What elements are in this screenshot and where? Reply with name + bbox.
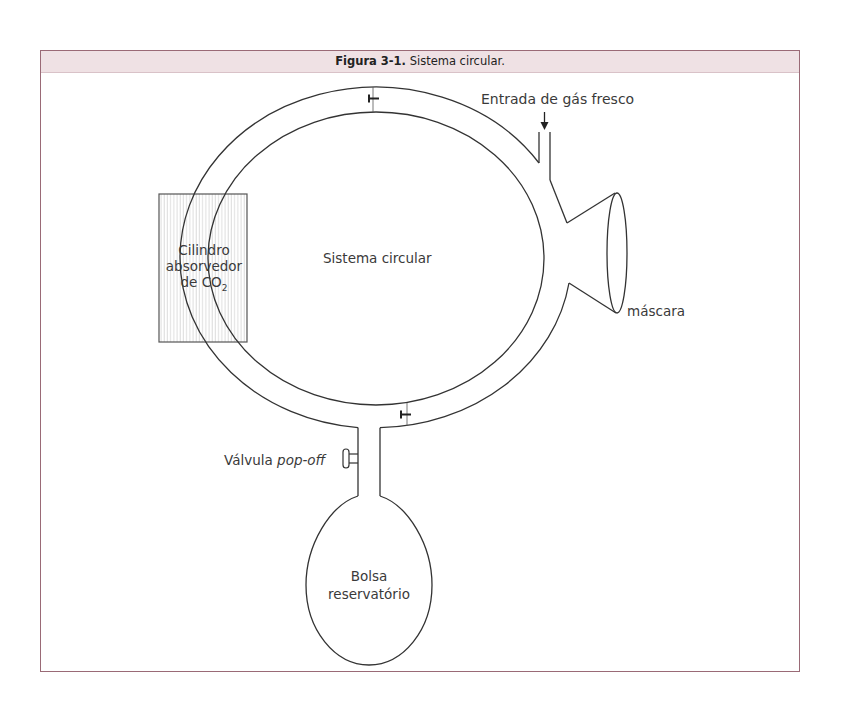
co2-absorber-label: Cilindro absorvedor de CO2 bbox=[156, 242, 252, 296]
circuit-outer-wall-lower-right bbox=[380, 283, 569, 428]
absorber-label-line3: de CO2 bbox=[156, 274, 252, 296]
bag-label-line2: reservatório bbox=[319, 585, 419, 603]
expiratory-valve-icon bbox=[401, 403, 411, 426]
popoff-valve-label: Válvula pop-off bbox=[224, 452, 325, 468]
circuit-outer-wall-upper-right bbox=[550, 180, 567, 223]
circle-system-diagram bbox=[0, 0, 845, 709]
reservoir-bag-label: Bolsa reservatório bbox=[319, 567, 419, 603]
arrow-down-icon bbox=[541, 112, 549, 130]
inspiratory-valve-icon bbox=[369, 87, 379, 112]
mask-label: máscara bbox=[627, 303, 685, 319]
circle-system-label: Sistema circular bbox=[323, 250, 432, 266]
mask bbox=[607, 193, 627, 313]
popoff-valve-icon bbox=[343, 449, 358, 468]
mask-connector-upper bbox=[567, 193, 615, 223]
fresh-gas-inlet-label: Entrada de gás fresco bbox=[481, 91, 634, 107]
absorber-label-line2: absorvedor bbox=[156, 258, 252, 274]
bag-label-line1: Bolsa bbox=[319, 567, 419, 585]
absorber-label-line1: Cilindro bbox=[156, 242, 252, 258]
